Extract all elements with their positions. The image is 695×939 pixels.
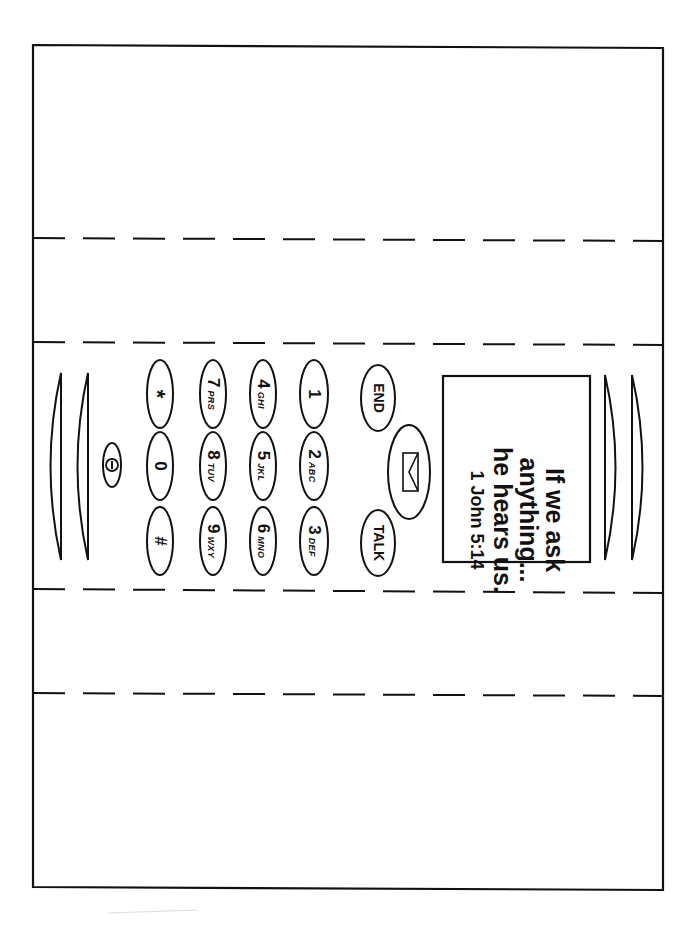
power-button[interactable] <box>103 443 121 487</box>
key-0[interactable]: 0 <box>150 436 170 496</box>
key-star-symbol: * <box>145 390 170 399</box>
key-hash-symbol: # <box>151 536 170 545</box>
key-6-number: 6 <box>254 524 273 533</box>
key-8-letters: TUV <box>206 463 216 482</box>
key-0-number: 0 <box>151 461 170 470</box>
screen-text: If we ask anything... he hears us. 1 Joh… <box>446 430 586 610</box>
key-8-number: 8 <box>204 450 223 459</box>
key-2-number: 2 <box>305 450 324 459</box>
key-3-number: 3 <box>305 525 324 534</box>
verse-reference: 1 John 5:14 <box>464 470 490 569</box>
key-star[interactable]: * <box>150 364 170 424</box>
key-9-number: 9 <box>204 524 223 533</box>
talk-button[interactable]: TALK <box>368 513 388 573</box>
key-5-letters: JKL <box>256 463 266 481</box>
end-button[interactable]: END <box>368 368 388 428</box>
talk-label: TALK <box>371 525 387 561</box>
key-8[interactable]: 8TUV <box>203 436 223 496</box>
speaker-grille-right-inner <box>605 375 616 560</box>
speaker-grille-left-inner <box>78 373 89 560</box>
key-5[interactable]: 5JKL <box>253 436 273 496</box>
speaker-grille-right-outer <box>632 375 643 560</box>
key-3[interactable]: 3DEF <box>304 511 324 571</box>
key-7-number: 7 <box>204 378 223 387</box>
key-1[interactable]: 1 <box>304 364 324 424</box>
key-6-letters: MNO <box>256 536 266 558</box>
fold-line-2 <box>33 342 663 345</box>
speaker-grille-left-outer <box>51 373 62 560</box>
key-2-letters: ABC <box>307 462 317 482</box>
key-1-number: 1 <box>305 389 324 398</box>
key-9[interactable]: 9WXY <box>203 511 223 571</box>
fold-line-4 <box>33 693 663 696</box>
key-4-number: 4 <box>254 379 273 388</box>
key-4-letters: GHI <box>256 392 266 409</box>
key-6[interactable]: 6MNO <box>253 511 273 571</box>
scan-artifact <box>108 910 197 913</box>
key-7[interactable]: 7PRS <box>203 364 223 424</box>
end-label: END <box>371 383 387 413</box>
key-7-letters: PRS <box>206 391 216 410</box>
key-5-number: 5 <box>254 451 273 460</box>
message-button[interactable] <box>388 425 430 519</box>
key-9-letters: WXY <box>206 537 216 558</box>
verse-line-1: If we ask <box>542 468 568 572</box>
verse-line-2: anything... <box>516 458 542 583</box>
key-hash[interactable]: # <box>150 511 170 571</box>
key-2[interactable]: 2ABC <box>304 436 324 496</box>
fold-line-1 <box>33 238 663 241</box>
verse-line-3: he hears us. <box>490 447 516 593</box>
key-3-letters: DEF <box>307 538 317 557</box>
key-4[interactable]: 4GHI <box>253 364 273 424</box>
